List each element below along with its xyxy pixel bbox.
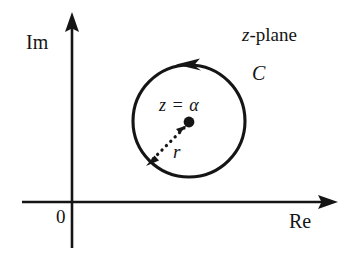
radius-indicator bbox=[146, 126, 187, 167]
real-axis-label: Re bbox=[289, 211, 311, 231]
center-point-dot bbox=[184, 117, 195, 128]
origin-label: 0 bbox=[56, 207, 66, 226]
contour-label: C bbox=[252, 63, 265, 83]
plane-label: z-plane bbox=[242, 25, 297, 44]
real-axis bbox=[22, 195, 338, 209]
center-point-label: z = α bbox=[159, 96, 199, 114]
plane-label-suffix: -plane bbox=[249, 24, 296, 45]
imaginary-axis bbox=[65, 12, 79, 248]
radius-label: r bbox=[173, 142, 180, 161]
radius-arrowhead-center bbox=[176, 126, 187, 134]
imaginary-axis-label: Im bbox=[26, 32, 48, 52]
complex-plane-figure: Im z-plane C z = α r 0 Re bbox=[0, 0, 350, 260]
